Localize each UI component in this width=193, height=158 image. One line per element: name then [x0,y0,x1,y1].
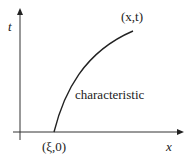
t-axis-arrowhead-icon [17,8,23,15]
curve-end-label: (x,t) [121,9,143,24]
curve-start-label: (ξ,0) [42,139,66,154]
t-axis-label: t [8,19,12,34]
diagram-svg: t x (x,t) (ξ,0) characteristic [0,0,193,158]
characteristic-curve [54,31,133,132]
curve-name-label: characteristic [75,87,145,102]
x-axis-label: x [165,139,172,154]
characteristic-diagram: t x (x,t) (ξ,0) characteristic [0,0,193,158]
x-axis-arrowhead-icon [177,129,184,135]
